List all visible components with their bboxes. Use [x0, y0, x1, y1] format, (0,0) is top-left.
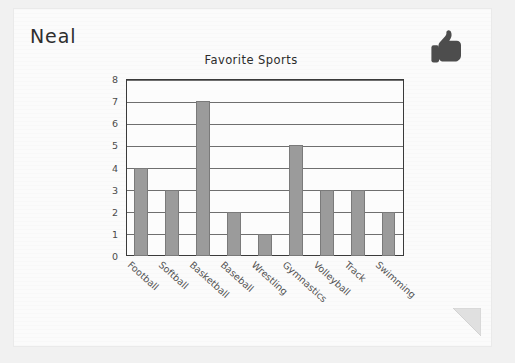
y-tick-label: 1	[112, 228, 118, 239]
paper-sheet: Neal Favorite Sports 012345678 FootballS…	[14, 9, 491, 346]
plot-area	[126, 79, 404, 256]
y-tick-label: 2	[112, 206, 118, 217]
bar-chart: Favorite Sports 012345678 FootballSoftba…	[98, 53, 418, 313]
x-tick-label: Swimming	[373, 259, 417, 300]
y-tick-label: 8	[112, 74, 118, 85]
gridline	[127, 212, 403, 213]
gridline	[127, 234, 403, 235]
y-tick-label: 3	[112, 184, 118, 195]
y-tick-label: 7	[112, 96, 118, 107]
gridline	[127, 102, 403, 103]
x-tick-label: Softball	[157, 259, 191, 291]
x-axis: FootballSoftballBasketballBaseballWrestl…	[126, 259, 404, 313]
gridline	[127, 146, 403, 147]
y-tick-label: 5	[112, 140, 118, 151]
x-tick-label: Track	[342, 259, 368, 284]
y-tick-label: 4	[112, 162, 118, 173]
gridline	[127, 124, 403, 125]
student-name: Neal	[30, 25, 76, 47]
x-tick-label: Football	[126, 259, 161, 292]
page-fold-icon	[453, 308, 481, 336]
gridline	[127, 80, 403, 81]
gridline	[127, 190, 403, 191]
y-tick-label: 6	[112, 118, 118, 129]
chart-title: Favorite Sports	[98, 53, 404, 67]
y-tick-label: 0	[112, 251, 118, 262]
thumbs-up-icon	[425, 25, 469, 69]
y-axis: 012345678	[98, 79, 122, 256]
scanned-worksheet: Neal Favorite Sports 012345678 FootballS…	[0, 0, 515, 363]
gridline	[127, 168, 403, 169]
